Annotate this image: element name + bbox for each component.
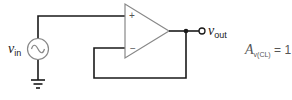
vout-subscript: out	[214, 30, 227, 40]
gain-subscript: v(CL)	[254, 51, 271, 58]
minus-input-label: −	[130, 43, 136, 54]
vin-subscript: in	[14, 48, 21, 58]
gain-equation: Av(CL) = 1	[245, 43, 291, 58]
output-terminal	[199, 28, 205, 34]
gain-value: 1	[284, 43, 291, 57]
ac-source-icon	[28, 39, 49, 60]
plus-input-label: +	[129, 10, 135, 21]
vin-label: vin	[8, 42, 21, 58]
gain-symbol: A	[245, 42, 254, 57]
gain-equals: =	[274, 43, 281, 57]
ground-icon	[31, 80, 45, 88]
junction-dot	[184, 29, 189, 34]
input-wire	[38, 16, 125, 39]
vout-label: vout	[208, 24, 227, 40]
